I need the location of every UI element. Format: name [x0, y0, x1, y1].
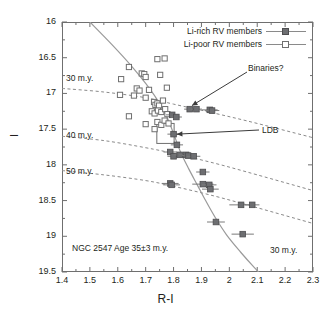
isochrone-40-label: 40 m.y. [66, 130, 93, 140]
data-point-li-rich [169, 182, 175, 188]
data-point-li-poor [155, 57, 160, 62]
model-curve-label: 30 m.y. [270, 245, 297, 255]
x-tick-label: 1.4 [47, 276, 77, 285]
binaries-label: Binaries? [248, 63, 283, 73]
data-point-li-poor [119, 77, 124, 82]
data-point-li-rich [213, 219, 219, 225]
data-point-li-rich [191, 153, 197, 159]
annotation-arrows [177, 72, 259, 136]
y-axis-title: I [8, 134, 20, 137]
data-point-li-rich [171, 153, 177, 159]
data-point-li-poor [146, 87, 151, 92]
data-point-li-poor [137, 88, 142, 93]
data-point-li-poor [156, 103, 161, 108]
data-point-li-rich [200, 181, 206, 187]
isochrone-30-label: 30 m.y. [66, 73, 93, 83]
data-point-li-rich [209, 108, 215, 114]
ldb-label: LDB [262, 125, 279, 135]
x-tick-label: 1.6 [103, 276, 133, 285]
open-square-icon [282, 41, 289, 48]
x-tick-label: 2.2 [270, 276, 300, 285]
legend-swatch-li-rich [266, 27, 306, 36]
legend-label-li-poor: Li-poor RV members [184, 39, 262, 49]
legend-item-li-poor: Li-poor RV members [158, 38, 306, 50]
data-point-li-poor [143, 95, 148, 100]
data-point-li-rich [174, 142, 180, 148]
legend-item-li-rich: Li-rich RV members [158, 25, 306, 37]
data-point-li-poor [126, 114, 131, 119]
data-point-li-rich [208, 186, 214, 192]
cluster-info-label: NGC 2547 Age 35±3 m.y. [72, 243, 168, 253]
data-point-li-rich [238, 202, 244, 208]
x-tick-label: 2.1 [242, 276, 272, 285]
data-point-li-rich [171, 131, 177, 137]
data-point-li-poor [164, 85, 169, 90]
x-axis-title: R-I [0, 292, 331, 306]
data-point-li-rich [249, 202, 255, 208]
data-point-li-rich [194, 106, 200, 112]
data-point-li-poor [158, 72, 163, 77]
x-axis-tick-labels: 1.41.51.61.71.81.922.12.22.3 [0, 276, 331, 290]
x-tick-label: 1.5 [75, 276, 105, 285]
data-point-li-poor [160, 98, 165, 103]
legend-swatch-li-poor [266, 40, 306, 49]
data-point-li-poor [126, 64, 131, 69]
data-point-li-rich [174, 114, 180, 120]
isochrone-50-label: 50 m.y. [66, 166, 93, 176]
x-tick-label: 2.3 [298, 276, 328, 285]
filled-square-icon [282, 28, 289, 35]
x-tick-label: 1.9 [186, 276, 216, 285]
data-point-li-poor [163, 107, 168, 112]
color-magnitude-diagram: 1616.51717.51818.51919.5 1.41.51.61.71.8… [0, 0, 331, 315]
x-tick-label: 1.8 [159, 276, 189, 285]
legend: Li-rich RV members Li-poor RV members [158, 25, 306, 51]
model-curve-30my [90, 22, 266, 279]
data-point-li-rich [240, 231, 246, 237]
data-point-li-poor [166, 121, 171, 126]
legend-label-li-rich: Li-rich RV members [187, 26, 262, 36]
data-point-li-poor [143, 74, 148, 79]
data-point-li-poor [162, 56, 167, 61]
data-point-li-poor [143, 122, 148, 127]
data-point-li-rich [200, 169, 206, 175]
data-point-li-poor [117, 92, 122, 97]
axis-ticks [62, 22, 313, 272]
li-poor-data-points [117, 56, 171, 132]
data-point-li-rich [185, 153, 191, 159]
data-point-li-poor [131, 93, 136, 98]
x-tick-label: 1.7 [131, 276, 161, 285]
data-point-li-poor [152, 127, 157, 132]
x-tick-label: 2 [214, 276, 244, 285]
